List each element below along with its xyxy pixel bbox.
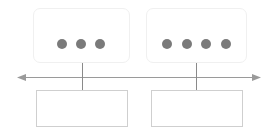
- top-box-2: [146, 8, 247, 63]
- ellipsis-dot-icon: [76, 39, 86, 49]
- ellipsis-dot-icon: [201, 39, 211, 49]
- bottom-box-1: [36, 90, 128, 127]
- top-box-1: [33, 8, 130, 63]
- right-arrowhead-icon: [252, 74, 261, 81]
- left-arrowhead-icon: [17, 74, 26, 81]
- connector-line-1: [82, 63, 83, 91]
- ellipsis-dot-icon: [57, 39, 67, 49]
- bottom-box-2: [151, 90, 243, 127]
- ellipsis-dot-icon: [95, 39, 105, 49]
- ellipsis-dot-icon: [162, 39, 172, 49]
- ellipsis-dot-icon: [221, 39, 231, 49]
- ellipsis-dot-icon: [182, 39, 192, 49]
- connector-line-2: [196, 63, 197, 91]
